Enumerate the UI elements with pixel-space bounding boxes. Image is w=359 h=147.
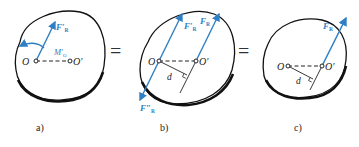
- rigid-body-shadow: [18, 72, 103, 101]
- svg-text:d: d: [296, 76, 301, 86]
- label-o-prime: O′: [73, 56, 83, 67]
- point-o: [157, 59, 161, 63]
- label-force-fr-double-prime: F″: [139, 103, 151, 113]
- svg-text:FR: FR: [322, 21, 334, 32]
- moment-arc-icon: [20, 43, 44, 48]
- svg-text:M′O: M′O: [53, 47, 67, 58]
- label-force-fr-prime: F′: [183, 21, 193, 31]
- label-o-prime: O′: [325, 61, 335, 72]
- point-o: [286, 64, 290, 68]
- point-o-prime: [194, 59, 198, 63]
- svg-text:O′: O′: [199, 56, 209, 67]
- label-o-prime: O′: [199, 56, 209, 67]
- label-o: O: [277, 61, 284, 72]
- point-o: [34, 59, 38, 63]
- label-o: O: [148, 56, 155, 67]
- force-arrow-fr-prime: [159, 14, 182, 61]
- equals-sign-2: =: [238, 40, 249, 62]
- point-o-prime: [68, 59, 72, 63]
- label-distance-d: d: [296, 76, 301, 86]
- svg-text:O′: O′: [325, 61, 335, 72]
- svg-text:O: O: [277, 61, 284, 72]
- panel-b: O O′ d F′R FR F″R b): [139, 12, 235, 134]
- label-force-fr-prime: F′: [55, 22, 65, 32]
- equals-sign-1: =: [110, 40, 121, 62]
- svg-text:F′R: F′R: [55, 22, 70, 33]
- rigid-body-outline: [263, 19, 346, 98]
- svg-text:d: d: [167, 72, 172, 82]
- svg-text:FR: FR: [199, 16, 211, 27]
- force-system-diagram: O O′ F′R M′O a) = O O′ d F′R FR F″R b) =: [0, 0, 359, 147]
- caption-a: a): [36, 122, 44, 134]
- svg-text:O′: O′: [73, 56, 83, 67]
- label-force-fr: F: [199, 16, 206, 26]
- label-force-fr: F: [322, 21, 329, 31]
- label-moment-mo-prime: M′: [53, 47, 63, 57]
- label-o: O: [22, 56, 29, 67]
- svg-text:F″R: F″R: [139, 103, 156, 114]
- panel-a: O O′ F′R M′O a): [15, 11, 105, 134]
- label-distance-d: d: [167, 72, 172, 82]
- force-arrow-fr-prime: [36, 22, 55, 61]
- panel-c: O O′ d FR c): [263, 18, 346, 134]
- svg-text:F′R: F′R: [183, 21, 198, 32]
- caption-c: c): [294, 122, 302, 134]
- svg-text:O: O: [22, 56, 29, 67]
- point-o-prime: [320, 64, 324, 68]
- caption-b: b): [160, 122, 168, 134]
- distance-line-d: [159, 61, 187, 75]
- svg-text:O: O: [148, 56, 155, 67]
